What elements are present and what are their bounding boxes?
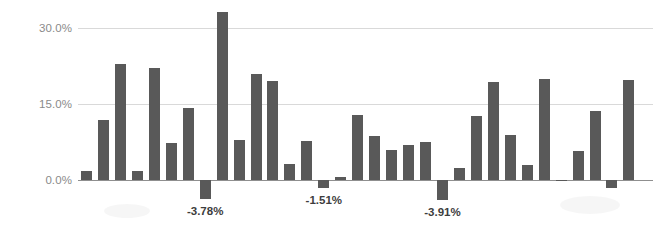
bar — [539, 79, 550, 180]
bar — [335, 177, 346, 180]
bar — [556, 180, 567, 181]
bar — [251, 74, 262, 180]
bar — [606, 180, 617, 188]
bar — [522, 165, 533, 180]
gridline — [78, 28, 653, 29]
bar — [301, 141, 312, 180]
bar — [420, 142, 431, 180]
zero-axis-line — [78, 180, 653, 181]
bar-value-label: -3.91% — [424, 206, 460, 218]
bar — [386, 150, 397, 180]
bar — [369, 136, 380, 180]
bar — [149, 68, 160, 180]
bar — [454, 168, 465, 180]
bar — [81, 171, 92, 180]
bar — [590, 111, 601, 180]
bar — [98, 120, 109, 180]
bar — [437, 180, 448, 200]
gridline — [78, 104, 653, 105]
bar-value-label: -3.78% — [187, 205, 223, 217]
bar — [267, 81, 278, 180]
bar — [200, 180, 211, 199]
y-axis: 0.0%15.0%30.0% — [0, 0, 72, 232]
bar — [115, 64, 126, 180]
bar — [166, 143, 177, 180]
y-tick-label: 30.0% — [39, 22, 72, 34]
bar — [488, 82, 499, 180]
bar — [403, 145, 414, 180]
bar — [132, 171, 143, 180]
y-tick-label: 15.0% — [39, 98, 72, 110]
bar-chart: 0.0%15.0%30.0% -3.78%-1.51%-3.91% — [0, 0, 659, 232]
y-tick-label: 0.0% — [45, 174, 72, 186]
bar — [623, 80, 634, 180]
plot-area: -3.78%-1.51%-3.91% — [78, 0, 653, 232]
bar-value-label: -1.51% — [306, 194, 342, 206]
bar — [284, 164, 295, 180]
bar — [318, 180, 329, 188]
bar — [573, 151, 584, 180]
bar — [352, 115, 363, 180]
bar — [505, 135, 516, 180]
bar — [471, 116, 482, 180]
bar — [234, 140, 245, 180]
bar — [217, 12, 228, 180]
bar — [183, 108, 194, 180]
